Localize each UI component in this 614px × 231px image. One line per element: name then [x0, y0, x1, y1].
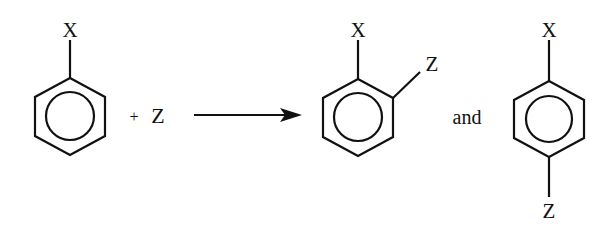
reactant-molecule: X	[35, 18, 105, 155]
ortho-aromatic-circle	[334, 93, 382, 141]
and-conjunction: and	[453, 106, 482, 128]
ortho-z-bond	[393, 72, 420, 98]
plus-sign: +	[129, 108, 138, 125]
reactant-aromatic-circle	[46, 92, 94, 140]
ortho-product-molecule: X Z	[323, 18, 438, 156]
ortho-substituent-z: Z	[426, 52, 439, 76]
ortho-substituent-x: X	[350, 18, 365, 42]
reaction-arrow	[194, 108, 302, 122]
para-benzene-ring	[514, 81, 584, 157]
para-substituent-x: X	[541, 18, 556, 42]
reaction-diagram: X + Z X Z and X Z	[0, 0, 614, 231]
para-substituent-z: Z	[543, 199, 556, 223]
para-aromatic-circle	[526, 96, 572, 142]
reactant-substituent-x: X	[62, 18, 77, 42]
reagent-z: Z	[151, 103, 164, 128]
para-product-molecule: X Z	[514, 18, 584, 223]
